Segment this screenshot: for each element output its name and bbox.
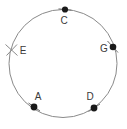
- point-d-label: D: [86, 92, 93, 102]
- circle-diagram: C E G A D: [0, 0, 127, 129]
- point-g-label: G: [100, 44, 108, 54]
- point-c-label: C: [60, 16, 67, 26]
- point-d-dot: [91, 105, 98, 112]
- point-a-dot: [31, 104, 38, 111]
- point-d-marker: [89, 104, 101, 112]
- point-c-marker: [59, 6, 72, 12]
- point-e-label: E: [20, 46, 27, 56]
- point-a-label: A: [35, 92, 42, 102]
- point-g-dot: [110, 44, 117, 51]
- point-c-dot: [62, 6, 68, 12]
